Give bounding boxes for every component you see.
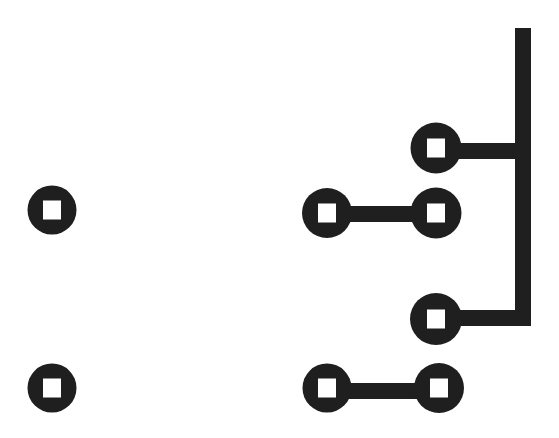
trunk-layer (515, 28, 531, 326)
node-inner-square-icon (318, 204, 336, 223)
node-inner-square-icon (43, 201, 61, 220)
node-inner-square-icon (318, 379, 336, 398)
node-link-diagram (0, 0, 559, 438)
node-n1[interactable] (28, 186, 77, 235)
node-inner-square-icon (427, 139, 445, 158)
node-inner-square-icon (427, 204, 445, 223)
node-n7[interactable] (410, 293, 462, 345)
diagram-canvas (0, 0, 559, 438)
node-n4[interactable] (303, 364, 352, 413)
node-n5[interactable] (411, 123, 462, 174)
node-n2[interactable] (28, 364, 77, 413)
node-inner-square-icon (427, 310, 445, 329)
node-inner-square-icon (43, 379, 61, 398)
trunk-vertical-bar (515, 28, 531, 326)
node-n8[interactable] (414, 363, 464, 413)
node-inner-square-icon (430, 379, 448, 398)
node-n6[interactable] (411, 188, 462, 239)
canvas-background (0, 0, 559, 438)
node-n3[interactable] (302, 188, 352, 238)
